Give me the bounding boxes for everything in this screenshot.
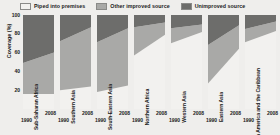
legend-item-other-improved[interactable]: Other improved source	[96, 3, 169, 10]
legend-item-unimproved[interactable]: Unimproved source	[181, 3, 246, 10]
x-tick-2008: 2008	[193, 110, 204, 116]
area-piped	[60, 86, 91, 109]
x-tick-1990: 1990	[132, 117, 143, 123]
area-piped	[171, 32, 202, 109]
y-tick-40: 40	[2, 69, 20, 74]
x-tick-2008: 2008	[45, 110, 56, 116]
area-piped	[245, 31, 276, 109]
x-tick-2008: 2008	[267, 110, 278, 116]
legend-label-piped: Piped into premises	[34, 3, 85, 10]
legend-label-unimproved: Unimproved source	[195, 3, 246, 10]
x-tick-group: 20081990	[58, 110, 93, 134]
x-tick-2008: 2008	[82, 110, 93, 116]
x-tick-2008: 2008	[230, 110, 241, 116]
panel-plot	[245, 15, 276, 109]
panel-plot	[134, 15, 165, 109]
panel-northern-africa[interactable]: Northern Africa	[132, 15, 167, 109]
legend-label-other-improved: Other improved source	[110, 3, 169, 10]
x-tick-1990: 1990	[169, 117, 180, 123]
area-piped	[23, 94, 54, 109]
panel-plot	[60, 15, 91, 109]
x-tick-group: 20081990	[21, 110, 56, 134]
x-tick-1990: 1990	[21, 117, 32, 123]
x-tick-group: 20081990	[243, 110, 278, 134]
x-axis-labels: 2008199020081990200819902008199020081990…	[21, 110, 278, 134]
legend-swatch-other-improved	[96, 3, 107, 10]
x-tick-group: 20081990	[206, 110, 241, 134]
x-tick-group: 20081990	[95, 110, 130, 134]
x-tick-1990: 1990	[206, 117, 217, 123]
legend-swatch-unimproved	[181, 3, 192, 10]
panel-south-eastern-asia[interactable]: South-Eastern Asia	[95, 15, 130, 109]
y-tick-20: 20	[2, 88, 20, 93]
panel-plot	[23, 15, 54, 109]
x-tick-group: 20081990	[169, 110, 204, 134]
panel-southern-asia[interactable]: Southern Asia	[58, 15, 93, 109]
panel-latin-america-and-the-caribbean[interactable]: Latin America and the Caribbean	[243, 15, 278, 109]
y-tick-60: 60	[2, 50, 20, 55]
x-tick-1990: 1990	[58, 117, 69, 123]
x-tick-group: 20081990	[132, 110, 167, 134]
panel-plot	[97, 15, 128, 109]
panel-plot	[208, 15, 239, 109]
panel-western-asia[interactable]: Western Asia	[169, 15, 204, 109]
x-tick-2008: 2008	[156, 110, 167, 116]
legend-swatch-piped	[20, 3, 31, 10]
panel-plot	[171, 15, 202, 109]
plot-area: Sub-Saharan AfricaSouthern AsiaSouth-Eas…	[21, 15, 278, 109]
legend-item-piped[interactable]: Piped into premises	[20, 3, 85, 10]
panel-sub-saharan-africa[interactable]: Sub-Saharan Africa	[21, 15, 56, 109]
chart-legend: Piped into premises Other improved sourc…	[20, 1, 278, 12]
x-tick-1990: 1990	[243, 117, 254, 123]
panel-eastern-asia[interactable]: Eastern Asia	[206, 15, 241, 109]
coverage-stacked-area-chart: Piped into premises Other improved sourc…	[0, 0, 280, 135]
x-tick-1990: 1990	[95, 117, 106, 123]
y-tick-100: 100	[2, 13, 20, 18]
y-axis-ticks: 10080604020	[0, 0, 20, 135]
y-tick-80: 80	[2, 31, 20, 36]
x-tick-2008: 2008	[119, 110, 130, 116]
